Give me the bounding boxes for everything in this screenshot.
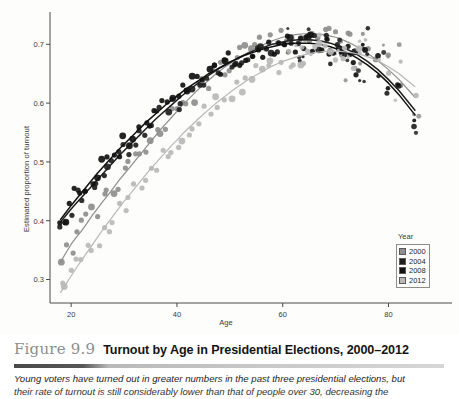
data-point — [345, 58, 349, 62]
data-point — [362, 47, 368, 53]
data-point — [260, 55, 265, 60]
data-point — [239, 89, 246, 96]
data-point — [243, 75, 248, 80]
data-point — [187, 132, 192, 137]
data-point — [178, 101, 183, 106]
legend-item-2008: 2008 — [399, 266, 426, 276]
caption-block: Figure 9.9 Turnout by Age in Presidentia… — [0, 334, 459, 393]
data-point — [107, 229, 112, 234]
data-point — [387, 56, 390, 59]
data-point — [97, 243, 102, 248]
data-point — [356, 45, 363, 52]
data-point — [62, 219, 69, 226]
data-point — [163, 127, 168, 132]
x-tick-label: 40 — [173, 310, 181, 319]
data-point — [358, 39, 362, 43]
data-point — [129, 136, 136, 143]
data-point — [180, 83, 185, 88]
data-point — [382, 44, 385, 47]
y-tick-label: 0.6 — [22, 99, 44, 108]
legend-item-2012: 2012 — [399, 276, 426, 286]
data-point — [189, 73, 196, 80]
legend-swatch-2004 — [399, 258, 406, 265]
legend-swatch-2008 — [399, 267, 406, 274]
data-point — [83, 212, 88, 217]
data-point — [301, 61, 306, 66]
y-tick-label: 0.5 — [22, 157, 44, 166]
data-point — [234, 80, 239, 85]
x-tick-label: 80 — [384, 310, 392, 319]
data-point — [177, 107, 182, 112]
data-point — [347, 32, 352, 37]
data-point — [278, 28, 283, 33]
y-tick-label: 0.7 — [22, 40, 44, 49]
data-point — [411, 124, 417, 130]
data-point — [73, 257, 78, 262]
x-tick-label: 20 — [67, 310, 75, 319]
caption-rule — [14, 364, 444, 368]
data-point — [69, 213, 74, 218]
data-point — [229, 95, 236, 102]
data-point — [340, 56, 345, 61]
legend-item-2004: 2004 — [399, 257, 426, 267]
data-point — [215, 105, 220, 110]
data-point — [322, 43, 327, 48]
data-point — [201, 82, 206, 87]
data-point — [351, 66, 356, 71]
data-point — [104, 154, 109, 159]
data-point — [266, 40, 271, 45]
legend-swatch-2000 — [399, 248, 406, 255]
data-point — [226, 50, 231, 55]
data-point — [57, 220, 62, 225]
data-point — [298, 36, 303, 41]
data-point — [253, 63, 258, 68]
data-point — [98, 156, 105, 163]
data-point — [168, 150, 173, 155]
data-point — [361, 43, 365, 47]
figure-title: Turnout by Age in Presidential Elections… — [103, 343, 409, 357]
data-point — [218, 72, 223, 77]
data-point — [395, 82, 400, 87]
data-point — [286, 49, 291, 54]
data-point — [206, 86, 211, 91]
chart-panel: Estimated proportion of turnout Age 0.30… — [0, 0, 459, 334]
data-point — [257, 35, 262, 40]
caption-heading: Figure 9.9 Turnout by Age in Presidentia… — [14, 340, 451, 358]
data-point — [159, 98, 164, 103]
data-point — [154, 168, 159, 173]
fit-curve-2012 — [61, 51, 415, 292]
data-point — [333, 57, 338, 62]
data-point — [208, 111, 213, 116]
data-point — [212, 63, 217, 68]
scatter-plot — [0, 0, 459, 334]
data-point — [176, 145, 181, 150]
data-point — [133, 143, 138, 148]
data-point — [143, 178, 148, 183]
data-point — [325, 37, 330, 42]
data-point — [241, 42, 248, 49]
data-point — [337, 38, 342, 43]
data-point — [125, 159, 130, 164]
data-point — [344, 78, 348, 82]
data-point — [361, 32, 365, 36]
data-point — [328, 62, 333, 67]
data-point — [88, 204, 95, 211]
data-point — [347, 55, 350, 58]
data-point — [126, 152, 131, 157]
data-point — [72, 186, 77, 191]
caption-line-1: Young voters have turned out in greater … — [14, 372, 438, 385]
data-point — [222, 72, 227, 77]
caption-line-2: their rate of turnout is still considera… — [14, 385, 438, 398]
data-point — [124, 208, 129, 213]
data-point — [243, 58, 248, 63]
data-point — [397, 42, 402, 47]
data-point — [237, 63, 242, 68]
data-point — [196, 121, 201, 126]
data-point — [364, 38, 368, 42]
data-point — [151, 108, 156, 113]
data-point — [333, 29, 338, 34]
data-point — [290, 62, 295, 67]
data-point — [386, 86, 391, 91]
data-point — [267, 57, 274, 64]
x-axis-title: Age — [219, 318, 233, 327]
